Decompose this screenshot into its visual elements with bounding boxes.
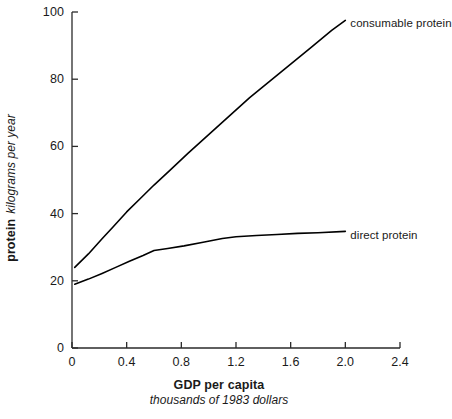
y-axis-tick-label: 20: [18, 274, 64, 288]
data-series-group: [75, 20, 346, 284]
series-line-consumable-protein: [75, 20, 346, 267]
x-axis-title-main: GDP per capita: [0, 378, 438, 393]
axis-lines: [72, 12, 400, 348]
y-axis-title: protein kilograms per year: [4, 114, 19, 262]
x-axis-tick-label: 1.6: [282, 355, 300, 369]
y-axis-tick-label: 0: [18, 341, 64, 355]
y-axis-tick-label: 60: [18, 139, 64, 153]
x-axis-tick-label: 0.8: [172, 355, 190, 369]
series-label-direct-protein: direct protein: [350, 229, 417, 241]
y-axis-tick-label: 40: [18, 207, 64, 221]
y-axis-tick-label: 100: [18, 5, 64, 19]
y-axis-tick-label: 80: [18, 72, 64, 86]
y-axis-ticks: [72, 12, 78, 348]
x-axis-tick-label: 0: [68, 355, 75, 369]
series-line-direct-protein: [75, 231, 346, 284]
x-axis-ticks: [72, 342, 400, 348]
y-axis-title-sub: kilograms per year: [4, 114, 19, 214]
x-axis-tick-label: 1.2: [227, 355, 245, 369]
x-axis-tick-label: 0.4: [118, 355, 136, 369]
x-axis-tick-label: 2.4: [391, 355, 409, 369]
y-axis-title-main: protein: [4, 219, 19, 262]
x-axis-title: GDP per capita thousands of 1983 dollars: [0, 378, 438, 408]
x-axis-title-sub: thousands of 1983 dollars: [0, 393, 438, 408]
series-label-consumable-protein: consumable protein: [350, 17, 451, 29]
x-axis-tick-label: 2.0: [336, 355, 354, 369]
